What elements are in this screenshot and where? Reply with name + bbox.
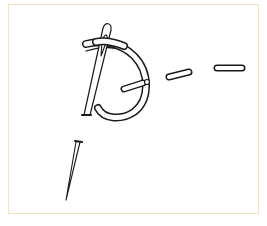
stitch-illustration bbox=[0, 0, 267, 226]
stitch-2 bbox=[169, 72, 189, 77]
needle-lower-icon bbox=[66, 141, 82, 200]
